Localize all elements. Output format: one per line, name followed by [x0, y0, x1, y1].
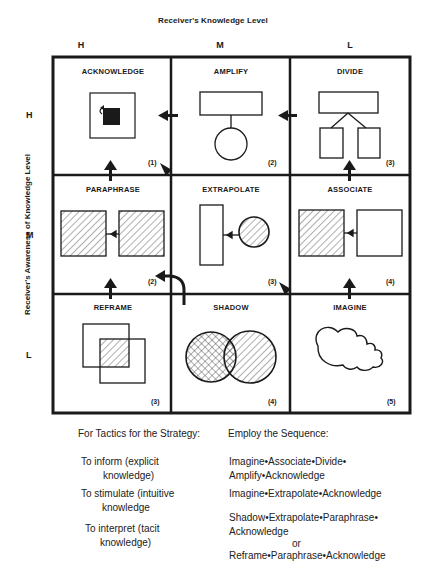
sequence-interpret-line2: Acknowledge	[229, 526, 288, 537]
cell-title-amplify: AMPLIFY	[172, 67, 290, 76]
shadow-figure	[186, 331, 276, 383]
tactic-stimulate-line2: knowledge	[102, 502, 150, 513]
cell-number-shadow: (4)	[268, 398, 277, 405]
sequence-stimulate: Imagine•Extrapolate•Acknowledge	[229, 488, 382, 499]
cell-title-extrapolate: EXTRAPOLATE	[172, 185, 290, 194]
cell-title-associate: ASSOCIATE	[291, 185, 409, 194]
cell-number-reframe: (3)	[151, 398, 160, 405]
paraphrase-figure	[61, 211, 164, 256]
amplify-figure	[200, 92, 262, 160]
tactic-stimulate-line1: To stimulate (intuitive	[81, 488, 174, 499]
sequence-inform-line1: Imagine•Associate•Divide•	[229, 456, 346, 467]
cell-number-acknowledge: (1)	[148, 159, 157, 166]
cell-number-associate: (4)	[386, 278, 395, 285]
sequence-inform-line2: Amplify•Acknowledge	[229, 470, 325, 481]
cell-number-divide: (3)	[386, 159, 395, 166]
tactic-inform-line2: knowledge)	[103, 470, 154, 481]
cell-number-amplify: (2)	[268, 159, 277, 166]
cell-title-paraphrase: PARAPHRASE	[54, 185, 172, 194]
reframe-figure	[83, 324, 145, 383]
tactic-interpret-line2: knowledge)	[100, 537, 151, 548]
acknowledge-figure	[90, 93, 135, 138]
cell-number-extrapolate: (3)	[268, 278, 277, 285]
cell-title-reframe: REFRAME	[54, 303, 172, 312]
table-header-sequence: Employ the Sequence:	[228, 428, 329, 439]
cell-title-imagine: IMAGINE	[291, 303, 409, 312]
cell-number-paraphrase: (2)	[148, 278, 157, 285]
cell-title-divide: DIVIDE	[291, 67, 409, 76]
table-header-tactics: For Tactics for the Strategy:	[78, 428, 200, 439]
strategy-grid	[0, 0, 426, 430]
cell-title-shadow: SHADOW	[172, 303, 290, 312]
sequence-interpret-or: or	[292, 538, 301, 549]
imagine-figure	[316, 327, 382, 370]
divide-figure	[319, 92, 380, 158]
sequence-interpret-line1: Shadow•Extrapolate•Paraphrase•	[229, 512, 378, 523]
cell-title-acknowledge: ACKNOWLEDGE	[54, 67, 172, 76]
associate-figure	[299, 210, 402, 256]
flow-arrows	[104, 110, 356, 305]
extrapolate-figure	[200, 205, 269, 265]
cell-number-imagine: (5)	[387, 398, 396, 405]
sequence-interpret-alt: Reframe•Paraphrase•Acknowledge	[229, 550, 386, 561]
tactic-interpret-line1: To interpret (tacit	[85, 523, 159, 534]
tactic-inform-line1: To inform (explicit	[81, 456, 159, 467]
